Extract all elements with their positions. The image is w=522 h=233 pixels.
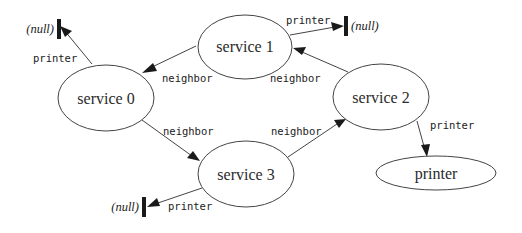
arrowhead-icon bbox=[142, 63, 157, 73]
arrowhead-icon bbox=[331, 22, 344, 31]
null-label: (null) bbox=[111, 200, 139, 214]
null-terminator-icon bbox=[142, 197, 146, 217]
arrowhead-icon bbox=[293, 47, 306, 55]
null-label: (null) bbox=[26, 22, 54, 36]
arrowhead-icon bbox=[60, 26, 72, 37]
edge-label: printer bbox=[286, 14, 330, 26]
edge-s1-null1 bbox=[290, 27, 335, 35]
service-diagram: service 1 service 0 service 2 service 3 … bbox=[0, 0, 522, 233]
node-label: service 2 bbox=[352, 89, 409, 106]
arrowhead-icon bbox=[187, 151, 200, 161]
edge-label: neighbor bbox=[162, 72, 213, 84]
arrowhead-icon bbox=[421, 144, 430, 157]
edge-label: printer bbox=[33, 52, 77, 64]
arrowhead-icon bbox=[147, 198, 160, 207]
edge-s1-s0 bbox=[150, 46, 196, 68]
node-label: service 3 bbox=[217, 166, 274, 183]
edge-label: printer bbox=[168, 200, 212, 212]
arrowhead-icon bbox=[334, 119, 346, 128]
null-label: (null) bbox=[351, 19, 379, 33]
node-label: printer bbox=[415, 165, 458, 183]
edge-label: neighbor bbox=[271, 125, 322, 137]
null-terminator-icon bbox=[57, 19, 61, 39]
null-terminator-icon bbox=[344, 16, 348, 36]
node-label: service 1 bbox=[216, 38, 273, 55]
node-label: service 0 bbox=[77, 90, 134, 107]
edge-label: neighbor bbox=[270, 72, 321, 84]
edge-label: neighbor bbox=[163, 125, 214, 137]
edge-label: printer bbox=[430, 119, 474, 131]
edge-s2-s1 bbox=[302, 52, 348, 72]
